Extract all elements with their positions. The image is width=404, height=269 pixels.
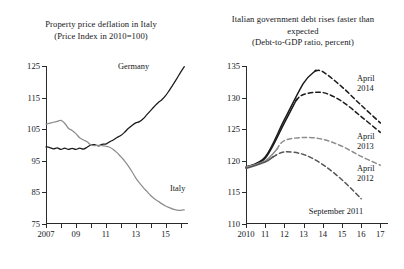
x-tick-left-11	[106, 224, 107, 228]
x-tick-left-09	[76, 224, 77, 228]
series-label-april-2013-year: 2013	[357, 142, 374, 152]
y-tick-right-135	[242, 66, 246, 67]
x-tick-label-right-12: 12	[280, 230, 289, 239]
series-label-april-2014-year: 2014	[357, 84, 374, 94]
y-tick-label-left-115: 115	[27, 93, 40, 102]
y-tick-right-115	[242, 192, 246, 193]
chart-title-left-line2: (Price Index in 2010=100)	[0, 31, 202, 43]
x-tick-label-left-11: 11	[102, 230, 110, 239]
chart-title-right-line1: Italian government debt rises faster tha…	[202, 14, 404, 26]
x-tick-label-right-14: 14	[318, 230, 327, 239]
x-tick-label-right-15: 15	[338, 230, 347, 239]
x-tick-label-right-13: 13	[299, 230, 308, 239]
x-tick-label-right-17: 17	[376, 230, 385, 239]
x-tick-right-16	[361, 224, 362, 228]
series-label-september-2011: September 2011	[309, 207, 363, 217]
y-tick-label-right-115: 115	[227, 188, 240, 197]
x-tick-right-11	[265, 224, 266, 228]
x-tick-right-13	[304, 224, 305, 228]
y-tick-label-right-130: 130	[227, 93, 240, 102]
x-tick-minor-left-2014	[151, 224, 152, 228]
x-tick-label-left-13: 13	[131, 230, 140, 239]
series-lines-left	[46, 66, 188, 224]
chart-title-right-line2: expected	[202, 26, 404, 38]
chart-panel-government-debt: Italian government debt rises faster tha…	[202, 0, 404, 269]
series-path-left-italy-actual	[46, 120, 184, 210]
y-tick-right-130	[242, 98, 246, 99]
chart-panel-property-price: Property price deflation in Italy (Price…	[0, 0, 202, 269]
y-tick-label-left-95: 95	[31, 157, 40, 166]
series-path-left-germany-actual	[46, 67, 184, 150]
y-tick-label-left-125: 125	[27, 62, 40, 71]
series-label-italy: Italy	[170, 184, 185, 194]
chart-title-left: Property price deflation in Italy (Price…	[0, 19, 202, 42]
y-tick-label-right-125: 125	[227, 125, 240, 134]
y-tick-label-right-120: 120	[227, 157, 240, 166]
y-tick-label-left-75: 75	[31, 220, 40, 229]
x-tick-label-left-2007: 2007	[37, 230, 54, 239]
x-tick-right-14	[323, 224, 324, 228]
series-label-germany: Germany	[118, 62, 149, 72]
x-tick-left-15	[166, 224, 167, 228]
x-tick-left-13	[136, 224, 137, 228]
y-tick-label-right-135: 135	[227, 62, 240, 71]
x-tick-label-right-16: 16	[357, 230, 366, 239]
y-tick-left-105	[42, 129, 46, 130]
x-tick-right-12	[284, 224, 285, 228]
x-tick-right-15	[342, 224, 343, 228]
x-tick-minor-left-2008	[61, 224, 62, 228]
series-label-april-2014: April	[357, 74, 375, 84]
series-path-right-september-2011-forecast	[273, 152, 361, 199]
chart-title-right: Italian government debt rises faster tha…	[202, 14, 404, 49]
x-tick-minor-left-2012	[121, 224, 122, 228]
y-tick-right-125	[242, 129, 246, 130]
chart-title-left-line1: Property price deflation in Italy	[0, 19, 202, 31]
series-label-april-2012-year: 2012	[357, 174, 374, 184]
y-tick-left-95	[42, 161, 46, 162]
y-tick-label-left-85: 85	[31, 188, 40, 197]
plot-area-left: 758595105115125200709111315	[46, 66, 188, 224]
x-tick-label-left-09: 09	[72, 230, 81, 239]
y-tick-left-85	[42, 192, 46, 193]
y-tick-left-115	[42, 98, 46, 99]
x-tick-left-2007	[46, 224, 47, 228]
chart-title-right-line3: (Debt-to-GDP ratio, percent)	[202, 37, 404, 49]
x-tick-label-right-11: 11	[261, 230, 269, 239]
y-tick-right-120	[242, 161, 246, 162]
y-tick-label-left-105: 105	[27, 125, 40, 134]
figure-two-panel-charts: Property price deflation in Italy (Price…	[0, 0, 404, 269]
x-tick-label-left-15: 15	[161, 230, 170, 239]
x-tick-minor-left-2016	[181, 224, 182, 228]
series-label-april-2012: April	[357, 164, 375, 174]
y-tick-left-125	[42, 66, 46, 67]
series-label-april-2013: April	[357, 132, 375, 142]
x-tick-right-2010	[246, 224, 247, 228]
x-tick-minor-left-2010	[91, 224, 92, 228]
x-tick-right-17	[380, 224, 381, 228]
x-tick-label-right-2010: 2010	[237, 230, 254, 239]
y-tick-label-right-110: 110	[227, 220, 240, 229]
